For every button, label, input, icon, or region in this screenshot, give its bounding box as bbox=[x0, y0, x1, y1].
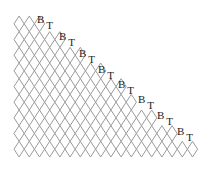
label-t: T bbox=[147, 99, 154, 111]
diamond-cell bbox=[24, 16, 34, 32]
diamond-cell bbox=[75, 94, 85, 110]
diamond-cell bbox=[167, 126, 177, 142]
diamond-cell bbox=[167, 141, 177, 157]
bt-label: BT bbox=[59, 31, 73, 42]
diamond-cell bbox=[55, 94, 65, 110]
diamond-cell bbox=[14, 126, 24, 142]
diamond-cell bbox=[55, 110, 65, 126]
diamond-cell bbox=[85, 110, 95, 126]
diamond-cell bbox=[14, 141, 24, 157]
diamond-cell bbox=[24, 63, 34, 79]
diamond-cell bbox=[34, 110, 44, 126]
diamond-cell bbox=[106, 141, 116, 157]
diamond-cell bbox=[65, 94, 75, 110]
label-t: T bbox=[186, 131, 193, 143]
diamond-cell bbox=[24, 32, 34, 48]
diamond-cell bbox=[14, 16, 24, 32]
diamond-cell bbox=[65, 141, 75, 157]
diamond-cell bbox=[136, 141, 146, 157]
diamond-cell bbox=[14, 94, 24, 110]
diamond-cell bbox=[55, 47, 65, 63]
diamond-cell bbox=[24, 126, 34, 142]
label-t: T bbox=[107, 69, 114, 81]
label-t: T bbox=[46, 19, 53, 31]
diamond-cell bbox=[147, 110, 157, 126]
diamond-cell bbox=[96, 126, 106, 142]
bt-label: BT bbox=[118, 79, 132, 90]
label-b: B bbox=[79, 47, 86, 59]
diamond-cell bbox=[126, 94, 136, 110]
diamond-cell bbox=[65, 47, 75, 63]
diamond-cell bbox=[34, 47, 44, 63]
label-b: B bbox=[177, 125, 184, 137]
diamond-cell bbox=[147, 126, 157, 142]
diamond-cell bbox=[116, 110, 126, 126]
diamond-cell bbox=[126, 126, 136, 142]
diamond-cell bbox=[34, 63, 44, 79]
diamond-cell bbox=[75, 79, 85, 95]
diamond-cell bbox=[45, 79, 55, 95]
label-t: T bbox=[166, 115, 173, 127]
bt-label: BT bbox=[177, 126, 191, 137]
diamond-cell bbox=[75, 126, 85, 142]
diamond-cell bbox=[126, 110, 136, 126]
label-b: B bbox=[98, 63, 105, 75]
diamond-cell bbox=[65, 110, 75, 126]
diamond-cell bbox=[24, 141, 34, 157]
bt-label: BT bbox=[79, 48, 93, 59]
diamond-cell bbox=[34, 141, 44, 157]
diamond-cell bbox=[34, 94, 44, 110]
diamond-cell bbox=[45, 32, 55, 48]
diamond-cell bbox=[75, 63, 85, 79]
diamond-cell bbox=[106, 126, 116, 142]
diamond-cell bbox=[34, 79, 44, 95]
diamond-cell bbox=[85, 63, 95, 79]
diamond-lattice bbox=[0, 0, 205, 170]
diamond-cell bbox=[45, 63, 55, 79]
diamond-cell bbox=[14, 47, 24, 63]
diamond-cell bbox=[24, 47, 34, 63]
diamond-cell bbox=[147, 141, 157, 157]
diamond-cell bbox=[106, 94, 116, 110]
diamond-cell bbox=[55, 79, 65, 95]
diamond-cell bbox=[106, 110, 116, 126]
diamond-cell bbox=[34, 32, 44, 48]
label-b: B bbox=[118, 78, 125, 90]
diamond-cell bbox=[116, 141, 126, 157]
diamond-cell bbox=[45, 94, 55, 110]
diamond-cell bbox=[55, 63, 65, 79]
label-t: T bbox=[68, 36, 75, 48]
diamond-cell bbox=[85, 79, 95, 95]
diamond-cell bbox=[45, 47, 55, 63]
diamond-cell bbox=[75, 141, 85, 157]
diamond-cell bbox=[85, 141, 95, 157]
diamond-cell bbox=[96, 110, 106, 126]
diamond-cell bbox=[55, 141, 65, 157]
diamond-cell bbox=[45, 126, 55, 142]
diamond-cell bbox=[85, 126, 95, 142]
diamond-cell bbox=[45, 141, 55, 157]
diamond-cell bbox=[14, 79, 24, 95]
label-b: B bbox=[59, 30, 66, 42]
diamond-cell bbox=[85, 94, 95, 110]
label-b: B bbox=[37, 13, 44, 25]
diamond-cell bbox=[126, 141, 136, 157]
diamond-cell bbox=[96, 141, 106, 157]
bt-label: BT bbox=[98, 64, 112, 75]
diamond-cell bbox=[136, 126, 146, 142]
diamond-cell bbox=[136, 110, 146, 126]
diamond-cell bbox=[96, 94, 106, 110]
diamond-cell bbox=[24, 94, 34, 110]
diamond-cell bbox=[24, 79, 34, 95]
diamond-cell bbox=[45, 110, 55, 126]
diamond-cell bbox=[187, 141, 197, 157]
diamond-cell bbox=[106, 79, 116, 95]
diamond-cell bbox=[157, 126, 167, 142]
diamond-cell bbox=[24, 110, 34, 126]
diamond-cell bbox=[65, 79, 75, 95]
label-t: T bbox=[127, 84, 134, 96]
diamond-cell bbox=[14, 63, 24, 79]
diamond-cell bbox=[177, 141, 187, 157]
diamond-cell bbox=[116, 126, 126, 142]
diamond-cell bbox=[96, 79, 106, 95]
